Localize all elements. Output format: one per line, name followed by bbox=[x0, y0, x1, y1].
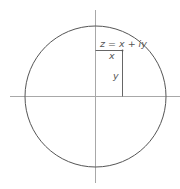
point-z bbox=[122, 50, 124, 52]
y-label: y bbox=[112, 70, 119, 81]
complex-plane-diagram: z = x + iy x y bbox=[0, 0, 180, 189]
x-label: x bbox=[108, 50, 115, 61]
z-equation-label: z = x + iy bbox=[99, 38, 147, 49]
